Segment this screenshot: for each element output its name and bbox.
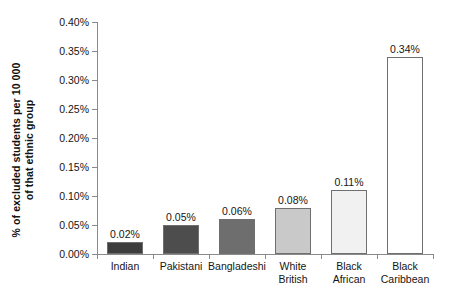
x-tick-mark (153, 254, 154, 259)
x-tick-mark (209, 254, 210, 259)
y-axis-title-line-1: % of excluded students per 10 000 (10, 63, 24, 238)
y-tick-label: 0.10% (59, 191, 89, 202)
y-tick-mark (92, 80, 97, 81)
bar-value-label: 0.02% (110, 229, 140, 240)
bar-value-label: 0.05% (166, 212, 196, 223)
y-tick-mark (92, 109, 97, 110)
x-tick-mark (265, 254, 266, 259)
y-tick-mark (92, 51, 97, 52)
y-tick-label: 0.00% (59, 249, 89, 260)
y-axis-title: % of excluded students per 10 000 of tha… (0, 0, 46, 300)
bar[interactable]: 0.06% (219, 219, 255, 254)
x-axis-category-label: White British (278, 260, 307, 285)
x-tick-mark (433, 254, 434, 259)
x-axis-category-label: Black African (333, 260, 366, 285)
bar[interactable]: 0.02% (107, 242, 143, 254)
y-tick-label: 0.35% (59, 46, 89, 57)
bar[interactable]: 0.11% (331, 190, 367, 254)
bar-value-label: 0.11% (334, 177, 363, 188)
bar-value-label: 0.08% (278, 195, 308, 206)
x-axis-category-label: Black Caribbean (381, 260, 429, 285)
y-tick-label: 0.20% (59, 133, 89, 144)
y-tick-label: 0.15% (59, 162, 89, 173)
y-tick-mark (92, 138, 97, 139)
x-axis-category-label: Pakistani (160, 260, 203, 273)
x-axis-category-label: Indian (111, 260, 140, 273)
bar-chart: % of excluded students per 10 000 of tha… (0, 0, 449, 300)
y-tick-mark (92, 225, 97, 226)
y-tick-label: 0.40% (59, 17, 89, 28)
bar[interactable]: 0.08% (275, 208, 311, 254)
y-tick-label: 0.25% (59, 104, 89, 115)
y-axis-title-line-2: of that ethnic group (23, 63, 37, 238)
x-tick-mark (97, 254, 98, 259)
bar[interactable]: 0.34% (387, 57, 423, 254)
y-tick-mark (92, 22, 97, 23)
y-tick-label: 0.30% (59, 75, 89, 86)
x-tick-mark (377, 254, 378, 259)
x-tick-mark (321, 254, 322, 259)
bar[interactable]: 0.05% (163, 225, 199, 254)
y-tick-mark (92, 167, 97, 168)
bar-value-label: 0.06% (222, 206, 252, 217)
x-axis-category-label: Bangladeshi (208, 260, 266, 273)
y-tick-mark (92, 196, 97, 197)
y-axis-line (97, 22, 98, 254)
bar-value-label: 0.34% (390, 44, 420, 55)
y-tick-label: 0.05% (59, 220, 89, 231)
plot-area: 0.00%0.05%0.10%0.15%0.20%0.25%0.30%0.35%… (97, 22, 433, 254)
